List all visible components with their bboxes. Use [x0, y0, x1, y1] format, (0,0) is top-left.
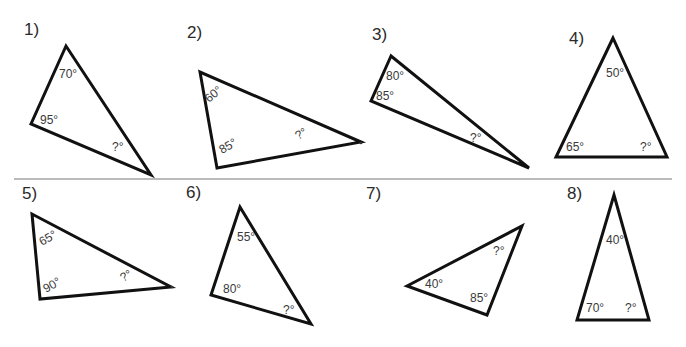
problem-number: 8)	[567, 184, 582, 203]
angle-label: 70°	[59, 67, 77, 81]
triangle	[31, 46, 151, 175]
angle-label: ?°	[470, 131, 482, 145]
angle-label: 40°	[606, 233, 624, 247]
problem-3: 3) 80° 85° ?°	[360, 25, 529, 168]
angle-label: 85°	[217, 135, 240, 156]
angle-label: 65°	[566, 140, 584, 154]
angle-label: 80°	[386, 69, 404, 83]
angle-label: ?°	[493, 244, 505, 258]
triangle	[211, 207, 311, 324]
angle-label: 40°	[425, 277, 443, 291]
problem-number: 3)	[372, 25, 387, 44]
problem-number: 6)	[186, 183, 201, 202]
angle-label: 55°	[237, 230, 255, 244]
problem-number: 7)	[366, 184, 381, 203]
angle-label: ?°	[293, 125, 310, 143]
problem-7: 7) 40° ?° 85°	[366, 184, 522, 315]
problem-2: 2) 60° 85° ?°	[187, 23, 361, 168]
stray-dot	[171, 286, 174, 289]
triangle	[407, 226, 522, 315]
angle-label: 65°	[37, 227, 60, 248]
stray-dot	[360, 142, 363, 145]
angle-label: ?°	[625, 301, 637, 315]
problem-6: 6) 55° 80° ?°	[171, 183, 311, 324]
angle-label: ?°	[640, 140, 652, 154]
worksheet-canvas: 1) 70° 95° ?° 2) 60° 85° ?° 3) 80° 85° ?…	[0, 0, 686, 347]
angle-label: ?°	[283, 303, 295, 317]
angle-label: 80°	[223, 282, 241, 296]
problem-8: 8) 40° 70° ?°	[567, 184, 649, 320]
angle-label: ?°	[112, 140, 124, 154]
problem-5: 5) 65° 90° ?°	[22, 184, 171, 299]
problem-number: 1)	[24, 20, 39, 39]
angle-label: 85°	[470, 291, 488, 305]
problem-4: 4) 50° 65° ?°	[556, 29, 667, 157]
angle-label: 90°	[41, 274, 64, 295]
angle-label: 95°	[40, 113, 58, 127]
angle-label: 50°	[606, 66, 624, 80]
angle-label: ?°	[118, 267, 135, 285]
angle-label: 70°	[586, 301, 604, 315]
problem-number: 4)	[569, 29, 584, 48]
problem-1: 1) 70° 95° ?°	[24, 20, 151, 175]
angle-label: 85°	[376, 89, 394, 103]
problem-number: 2)	[187, 23, 202, 42]
problem-number: 5)	[22, 184, 37, 203]
